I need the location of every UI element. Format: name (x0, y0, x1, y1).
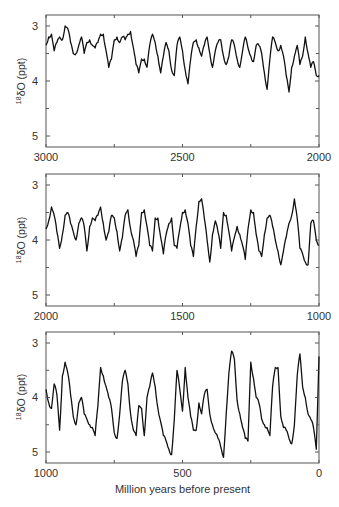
panel-1: 3 4 5 3000 2500 2000 18δO (ppt) (15, 15, 331, 163)
panel-3-trace (46, 351, 319, 457)
panel-3-xtick-left: 1000 (34, 467, 58, 479)
chart-canvas: 3 4 5 3000 2500 2000 18δO (ppt) 3 4 5 20… (0, 0, 339, 507)
panel-1-frame (46, 15, 319, 147)
panel-2-ytick-3: 3 (32, 179, 38, 191)
panel-2-frame (46, 174, 319, 306)
panel-2-xtick-left: 2000 (34, 310, 58, 322)
panel-2-trace (46, 199, 319, 265)
panel-3-xtick-mid: 500 (173, 467, 191, 479)
panel-2-ytick-5: 5 (32, 289, 38, 301)
panel-3-ytick-4: 4 (32, 391, 38, 403)
panel-1-xtick-mid: 2500 (170, 151, 194, 163)
svg-text:18δO (ppt): 18δO (ppt) (15, 217, 27, 263)
panel-2: 3 4 5 2000 1500 1000 18δO (ppt) (15, 174, 331, 322)
panel-1-trace (46, 26, 319, 92)
panel-3-frame (46, 332, 319, 463)
panel-1-ytick-4: 4 (32, 75, 38, 87)
panel-1-ytick-3: 3 (32, 20, 38, 32)
panel-2-ytick-4: 4 (32, 234, 38, 246)
panel-1-xtick-left: 3000 (34, 151, 58, 163)
panel-1-ytick-5: 5 (32, 130, 38, 142)
panel-3-ytick-5: 5 (32, 446, 38, 458)
panel-1-ylabel: 18δO (ppt) (15, 58, 27, 104)
panel-3-ytick-3: 3 (32, 337, 38, 349)
panel-3-xtick-right: 0 (316, 467, 322, 479)
panel-2-xtick-right: 1000 (307, 310, 331, 322)
x-axis-title: Million years before present (115, 483, 250, 495)
svg-text:18δO (ppt): 18δO (ppt) (15, 374, 27, 420)
svg-text:18δO (ppt): 18δO (ppt) (15, 58, 27, 104)
panel-2-ylabel: 18δO (ppt) (15, 217, 27, 263)
panel-1-xtick-right: 2000 (307, 151, 331, 163)
panel-2-xtick-mid: 1500 (170, 310, 194, 322)
panel-3-ylabel: 18δO (ppt) (15, 374, 27, 420)
panel-3: 3 4 5 1000 500 0 18δO (ppt) Million year… (15, 332, 322, 495)
